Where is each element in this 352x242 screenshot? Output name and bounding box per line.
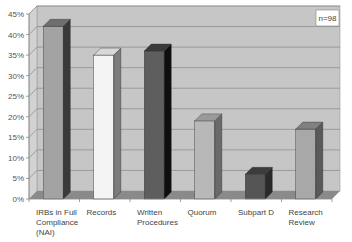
y-axis: 0%5%10%15%20%25%30%35%40%45% xyxy=(8,10,29,204)
y-tick-label: 20% xyxy=(8,113,24,122)
bar-side xyxy=(316,122,323,199)
bar-front xyxy=(94,55,114,199)
bar-front xyxy=(144,51,164,199)
bar xyxy=(43,19,70,199)
x-category-label: Compliance xyxy=(36,218,79,227)
bar-side xyxy=(215,114,222,199)
y-tick-label: 25% xyxy=(8,92,24,101)
y-tick-label: 35% xyxy=(8,51,24,60)
back-wall xyxy=(37,6,340,191)
x-category-label: Review xyxy=(289,218,315,227)
floor xyxy=(29,191,340,199)
bar-front xyxy=(245,174,265,199)
bar-front xyxy=(43,26,63,199)
x-category-label: Records xyxy=(87,208,117,217)
side-wall xyxy=(29,6,37,199)
bar xyxy=(245,167,272,199)
bar-side xyxy=(63,19,70,199)
bar-side xyxy=(114,48,121,199)
bar xyxy=(144,44,171,199)
bar xyxy=(94,48,121,199)
y-tick-label: 0% xyxy=(12,195,24,204)
y-tick-label: 40% xyxy=(8,31,24,40)
annotation-text: n=98 xyxy=(318,14,337,23)
y-tick-label: 15% xyxy=(8,133,24,142)
y-tick-label: 5% xyxy=(12,174,24,183)
x-category-label: (NAI) xyxy=(36,228,55,237)
bar xyxy=(195,114,222,199)
x-category-label: Written xyxy=(137,208,162,217)
y-tick-label: 30% xyxy=(8,72,24,81)
sample-size-annotation: n=98 xyxy=(316,10,339,26)
x-category-label: Subpart D xyxy=(238,208,274,217)
bar-chart: 0%5%10%15%20%25%30%35%40%45% IRBs in Ful… xyxy=(0,0,352,242)
y-tick-label: 45% xyxy=(8,10,24,19)
x-category-label: Quorum xyxy=(188,208,217,217)
bar xyxy=(296,122,323,199)
bar-front xyxy=(195,121,215,199)
x-category-label: IRBs in Full xyxy=(36,208,77,217)
bar-front xyxy=(296,129,316,199)
bar-side xyxy=(164,44,171,199)
x-category-label: Research xyxy=(289,208,323,217)
y-tick-label: 10% xyxy=(8,154,24,163)
x-category-label: Procedures xyxy=(137,218,178,227)
x-axis: IRBs in FullCompliance(NAI)RecordsWritte… xyxy=(29,199,332,237)
